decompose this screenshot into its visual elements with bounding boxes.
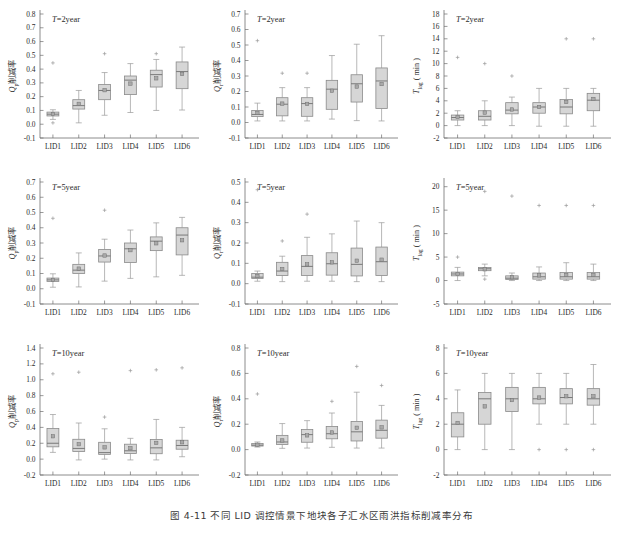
panel-grid: -0.10.00.10.20.30.40.50.60.70.8LID1LID2L… — [0, 0, 643, 505]
boxplot-r2c1: -0.10.00.10.20.30.40.50.60.7LID1LID2LID3… — [0, 168, 205, 334]
box-lid4 — [326, 400, 337, 448]
x-tick-label-lid4: LID4 — [122, 479, 138, 488]
y-tick-label: 0.4 — [231, 56, 241, 65]
boxplot-r1c1: -0.10.00.10.20.30.40.50.60.70.8LID1LID2L… — [0, 0, 205, 168]
y-tick-label: -0.1 — [24, 300, 36, 309]
x-tick-label-lid6: LID6 — [585, 142, 601, 151]
x-tick-label-lid6: LID6 — [374, 308, 390, 317]
box-lid4 — [326, 234, 337, 281]
box-lid1 — [47, 216, 59, 287]
y-tick-label: 4 — [436, 394, 440, 403]
x-tick-label-lid1: LID1 — [249, 479, 265, 488]
box-lid6 — [176, 217, 188, 275]
box-lid5 — [560, 37, 572, 126]
x-tick-label-lid1: LID1 — [450, 308, 466, 317]
y-tick-label: 0.1 — [26, 269, 36, 278]
x-tick-label-lid2: LID2 — [477, 308, 493, 317]
boxplot-r1c2: -0.10.00.10.20.30.40.50.60.7LID1LID2LID3… — [205, 0, 404, 168]
y-tick-label: 14 — [432, 34, 440, 43]
box-lid4 — [124, 369, 136, 460]
box-lid3 — [99, 52, 111, 115]
x-tick-label-lid4: LID4 — [531, 142, 547, 151]
y-tick-label: 2 — [436, 109, 440, 118]
x-tick-label-lid3: LID3 — [504, 479, 520, 488]
y-axis-title: Qp削减率 — [7, 60, 19, 93]
box-lid6 — [376, 223, 387, 282]
boxplot-r2c2: -0.10.00.10.20.30.40.5LID1LID2LID3LID4LI… — [205, 168, 404, 334]
x-tick-label-lid1: LID1 — [450, 479, 466, 488]
x-tick-label-lid5: LID5 — [148, 308, 164, 317]
y-tick-label: 0.6 — [26, 193, 36, 202]
x-tick-label-lid2: LID2 — [477, 142, 493, 151]
box-lid1 — [252, 39, 263, 121]
x-tick-label-lid6: LID6 — [374, 479, 390, 488]
box-lid6 — [176, 366, 188, 457]
box-lid5 — [351, 44, 362, 120]
y-tick-label: 8 — [436, 72, 440, 81]
y-tick-label: 0.0 — [26, 284, 36, 293]
x-tick-label-lid5: LID5 — [349, 142, 365, 151]
x-tick-label-lid5: LID5 — [148, 479, 164, 488]
x-tick-label-lid1: LID1 — [249, 142, 265, 151]
x-tick-label-lid4: LID4 — [324, 479, 340, 488]
y-tick-label: -0.1 — [229, 300, 241, 309]
y-tick-label: -2 — [433, 471, 439, 480]
y-tick-label: 0 — [436, 445, 440, 454]
figure-caption: 图 4-11 不同 LID 调控情景下地块各子汇水区雨洪指标削减率分布 — [0, 508, 643, 522]
y-tick-label: -0.1 — [229, 134, 241, 143]
y-tick-label: 0.1 — [231, 103, 241, 112]
box-lid1 — [47, 61, 59, 125]
box-lid6 — [587, 37, 599, 126]
y-tick-label: 4 — [436, 96, 440, 105]
x-tick-label-lid5: LID5 — [349, 308, 365, 317]
box-lid5 — [150, 223, 162, 277]
x-tick-label-lid4: LID4 — [324, 308, 340, 317]
box-lid5 — [150, 52, 162, 111]
box-lid4 — [533, 204, 545, 281]
x-tick-label-lid1: LID1 — [45, 479, 61, 488]
y-tick-label: 0.4 — [231, 198, 241, 207]
y-tick-label: 0.0 — [231, 118, 241, 127]
x-tick-label-lid3: LID3 — [97, 479, 113, 488]
y-tick-label: -0.2 — [24, 471, 36, 480]
y-tick-label: 12 — [432, 47, 440, 56]
y-tick-label: 6 — [436, 369, 440, 378]
box-lid6 — [376, 384, 387, 448]
x-tick-label-lid4: LID4 — [531, 308, 547, 317]
panel-r2c3: -505101520LID1LID2LID3LID4LID5LID6T=5yea… — [404, 168, 617, 334]
x-tick-label-lid5: LID5 — [558, 142, 574, 151]
box-lid2 — [479, 190, 491, 281]
x-tick-label-lid3: LID3 — [504, 308, 520, 317]
y-tick-label: 0.5 — [26, 208, 36, 217]
panel-tag: T=2year — [456, 15, 484, 24]
x-tick-label-lid6: LID6 — [585, 308, 601, 317]
x-tick-label-lid5: LID5 — [558, 308, 574, 317]
box-lid2 — [479, 373, 491, 449]
box-lid4 — [124, 64, 136, 113]
x-tick-label-lid6: LID6 — [374, 142, 390, 151]
y-tick-label: 0.5 — [26, 51, 36, 60]
x-tick-label-lid5: LID5 — [349, 479, 365, 488]
y-tick-label: 0.8 — [26, 10, 36, 19]
box-lid1 — [252, 188, 263, 281]
y-tick-label: -0.2 — [229, 471, 241, 480]
box-lid5 — [351, 221, 362, 282]
box-lid3 — [301, 71, 312, 121]
box-lid3 — [99, 415, 111, 459]
x-tick-label-lid2: LID2 — [274, 308, 290, 317]
y-tick-label: 16 — [432, 22, 440, 31]
panel-r1c3: -2024681012141618LID1LID2LID3LID4LID5LID… — [404, 0, 617, 168]
box-lid5 — [351, 365, 362, 448]
box-lid1 — [451, 255, 463, 280]
x-tick-label-lid5: LID5 — [558, 479, 574, 488]
x-tick-label-lid3: LID3 — [299, 308, 315, 317]
boxplot-r2c3: -505101520LID1LID2LID3LID4LID5LID6T=5yea… — [404, 168, 617, 334]
x-tick-label-lid1: LID1 — [249, 308, 265, 317]
figure-container: -0.10.00.10.20.30.40.50.60.70.8LID1LID2L… — [0, 0, 643, 548]
y-tick-label: 0.5 — [231, 41, 241, 50]
panel-r3c3: -202468LID1LID2LID3LID4LID5LID6T=10yearT… — [404, 334, 617, 505]
y-tick-label: 0.4 — [26, 423, 36, 432]
x-tick-label-lid5: LID5 — [148, 142, 164, 151]
x-tick-label-lid3: LID3 — [299, 142, 315, 151]
y-tick-label: 0.8 — [231, 344, 241, 353]
